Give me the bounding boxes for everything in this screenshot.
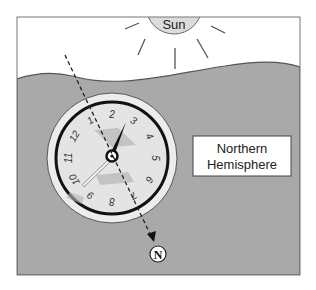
hemisphere-label-line1: Northern [217, 141, 268, 156]
north-label: N [154, 248, 163, 262]
sun-label: Sun [162, 17, 185, 32]
watch-compass-diagram: Sun 1 2 3 4 5 6 [0, 0, 316, 290]
north-marker: N [150, 246, 166, 262]
watch-number-8: 8 [109, 196, 115, 207]
hemisphere-label-line2: Hemisphere [207, 157, 277, 172]
watch-number-11: 11 [63, 153, 74, 163]
watch-number-5: 5 [150, 155, 161, 161]
watch-number-2: 2 [108, 109, 115, 120]
watch: 1 2 3 4 5 6 7 8 9 10 11 12 [47, 93, 177, 223]
hemisphere-label-box: Northern Hemisphere [193, 136, 291, 176]
